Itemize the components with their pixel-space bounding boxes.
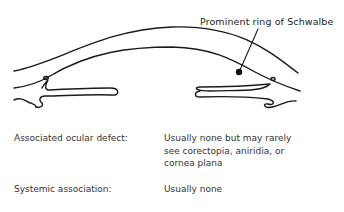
row-value-line: cornea plana [164, 157, 314, 170]
row-value-line: see corectopia, aniridia, or [164, 145, 314, 158]
row-label: Associated ocular defect: [14, 132, 128, 145]
row-value-line: Usually none but may rarely [164, 132, 314, 145]
row-value: Usually none [164, 183, 314, 196]
row-value: Usually none but may rarely see corectop… [164, 132, 314, 170]
schwalbe-ring-marker [236, 69, 242, 75]
row-value-line: Usually none [164, 183, 314, 196]
eye-anterior-segment-diagram: Prominent ring of Schwalbe [0, 0, 344, 115]
callout-label: Prominent ring of Schwalbe [200, 16, 333, 27]
row-label: Systemic association: [14, 183, 112, 196]
